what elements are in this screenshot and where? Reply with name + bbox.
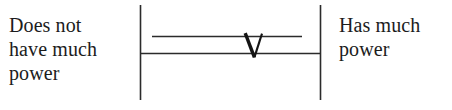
rating-scale-item: Does not have much power Has much power bbox=[0, 0, 452, 110]
anchor-label-high: Has much power bbox=[339, 13, 420, 61]
